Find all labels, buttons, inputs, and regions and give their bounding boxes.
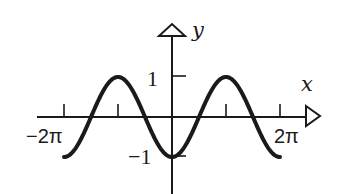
x-axis-label: x	[301, 74, 313, 95]
x-tick-label-neg-2pi: −2π	[26, 126, 63, 146]
x-tick-label-2pi: 2π	[274, 126, 299, 146]
y-tick-label-neg-1: −1	[128, 146, 151, 168]
function-plot	[0, 0, 342, 194]
x-axis-arrow-icon	[306, 106, 320, 126]
y-axis-label: y	[192, 20, 204, 41]
y-axis-arrow-icon	[159, 24, 185, 36]
y-tick-label-1: 1	[147, 68, 158, 90]
